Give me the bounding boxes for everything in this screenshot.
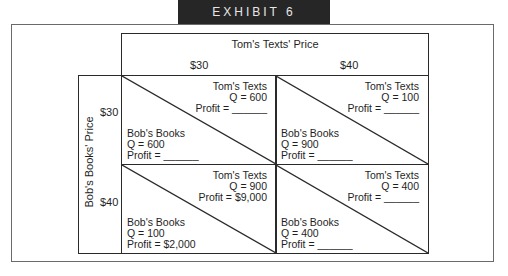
- column-player-title: Tom's Texts' Price: [122, 38, 428, 50]
- bob-payoff: Bob's Books Q = 400 Profit = ______: [281, 217, 353, 250]
- column-header: Tom's Texts' Price $30 $40: [121, 33, 429, 76]
- payoff-cell: Tom's Texts Q = 100 Profit = ______ Bob'…: [275, 75, 429, 165]
- bob-payoff: Bob's Books Q = 100 Profit = $2,000: [127, 217, 196, 250]
- tom-payoff: Tom's Texts Q = 900 Profit = $9,000: [198, 170, 267, 203]
- tom-payoff: Tom's Texts Q = 100 Profit = ______: [347, 81, 419, 114]
- bob-profit: Profit = ______: [281, 239, 353, 250]
- bob-profit: Profit = $2,000: [127, 239, 196, 250]
- column-label-30: $30: [190, 59, 208, 71]
- payoff-cell: Tom's Texts Q = 600 Profit = ______ Bob'…: [121, 75, 277, 165]
- bob-profit: Profit = ______: [127, 150, 199, 161]
- tom-profit: Profit = ______: [195, 103, 267, 114]
- bob-payoff: Bob's Books Q = 900 Profit = ______: [281, 128, 353, 161]
- payoff-cell: Tom's Texts Q = 400 Profit = ______ Bob'…: [275, 164, 429, 254]
- bob-payoff: Bob's Books Q = 600 Profit = ______: [127, 128, 199, 161]
- column-label-40: $40: [340, 59, 358, 71]
- row-player-title: Bob's Books' Price: [83, 82, 95, 242]
- tom-payoff: Tom's Texts Q = 600 Profit = ______: [195, 81, 267, 114]
- row-label-30: $30: [100, 106, 118, 118]
- payoff-cell: Tom's Texts Q = 900 Profit = $9,000 Bob'…: [121, 164, 277, 254]
- bob-profit: Profit = ______: [281, 150, 353, 161]
- row-label-40: $40: [100, 196, 118, 208]
- tom-profit: Profit = $9,000: [198, 192, 267, 203]
- tom-payoff: Tom's Texts Q = 400 Profit = ______: [347, 170, 419, 203]
- tom-profit: Profit = ______: [347, 103, 419, 114]
- tom-profit: Profit = ______: [347, 192, 419, 203]
- row-header: Bob's Books' Price $30 $40: [78, 75, 122, 254]
- exhibit-banner: EXHIBIT 6: [178, 0, 330, 24]
- exhibit-title: EXHIBIT 6: [212, 5, 295, 19]
